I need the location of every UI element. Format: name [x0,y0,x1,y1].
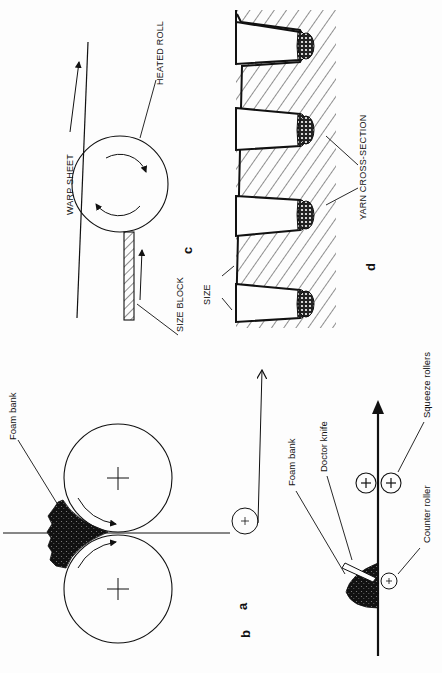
size-leader-2 [222,266,234,276]
panel-c: WARP SHEET HEATED ROLL SIZE BLOCK c [65,21,195,335]
yarn-cross-section-label: YARN CROSS-SECTION [358,115,368,220]
size-block-direction-arrow [140,250,142,300]
foam-bank-a-leader [18,440,58,505]
foam-bank-a-label: Foam bank [7,392,18,440]
heated-roll-label: HEATED ROLL [155,21,165,85]
panel-d: SIZE YARN CROSS-SECTION d [202,10,378,328]
counter-roller-label: Counter roller [421,485,432,543]
squeeze-rollers-label: Squeeze rollers [421,352,432,418]
counter-roller-leader [398,548,420,574]
foam-bank-b-leader [296,491,345,574]
fabric-direction-arrowhead [372,400,384,414]
doctor-knife-leader [327,476,352,560]
foam-bank-a [47,500,108,568]
size-block-label: SIZE BLOCK [175,277,185,332]
squeeze-rollers-leader [398,422,424,472]
panel-letter-a: a [235,602,250,610]
fabric-exit-arrow [258,370,262,523]
warp-direction-arrow [70,62,79,132]
panel-letter-c: c [180,247,195,254]
doctor-knife-label: Doctor knife [318,421,329,472]
panel-letter-d: d [363,263,378,271]
figure-canvas: WARP SHEET HEATED ROLL SIZE BLOCK c [0,0,442,673]
rotation-arrow-bottom [96,204,140,216]
diagram-svg: WARP SHEET HEATED ROLL SIZE BLOCK c [0,0,442,673]
warp-sheet-label: WARP SHEET [65,154,75,215]
size-block [124,232,134,320]
warp-sheet-line [77,42,88,318]
rotation-arrow-top [106,154,146,172]
size-block-leader [137,304,178,335]
size-leader-1 [222,298,232,310]
heated-roll-leader [140,80,156,138]
foam-bank-b-label: Foam bank [286,438,297,486]
size-label: SIZE [202,284,212,305]
panel-letter-b: b [238,630,253,638]
heated-roll [72,136,168,232]
panel-a: Foam bank a [3,370,262,643]
panel-b: Foam bank Doctor knife Counter roller Sq… [238,352,432,656]
